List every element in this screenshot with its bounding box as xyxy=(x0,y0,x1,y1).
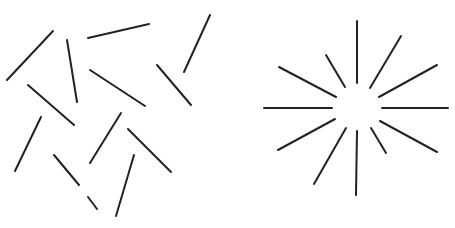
line-segment xyxy=(54,155,79,185)
line-segment xyxy=(90,113,121,163)
line-segment xyxy=(116,155,134,216)
radial-starburst-panel xyxy=(264,21,448,195)
line-figure xyxy=(0,0,455,228)
line-segment xyxy=(314,128,346,184)
line-segment xyxy=(380,121,437,152)
line-segment xyxy=(184,15,210,72)
line-segment xyxy=(67,40,77,102)
line-segment xyxy=(356,131,357,195)
line-segment xyxy=(157,65,191,105)
line-segment xyxy=(278,119,335,150)
line-segment xyxy=(7,31,53,80)
line-segment xyxy=(371,128,386,153)
line-segment xyxy=(15,117,41,171)
line-segment xyxy=(379,65,437,97)
scattered-lines-panel xyxy=(7,15,210,216)
line-segment xyxy=(90,70,145,106)
line-segment xyxy=(88,197,97,209)
line-segment xyxy=(128,129,171,172)
line-segment xyxy=(326,55,345,87)
line-segment xyxy=(370,36,401,88)
line-segment xyxy=(28,85,74,125)
line-segment xyxy=(279,67,336,97)
figure-canvas xyxy=(0,0,455,228)
line-segment xyxy=(88,24,149,38)
